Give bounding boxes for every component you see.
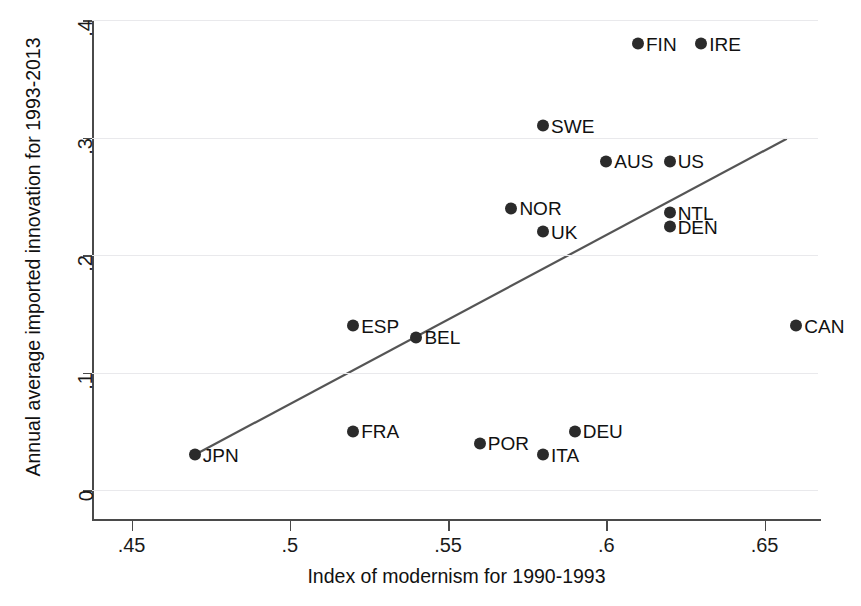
- point-label: FRA: [361, 422, 399, 441]
- data-point-bel[interactable]: BEL: [410, 328, 460, 347]
- point-label: SWE: [551, 116, 594, 135]
- point-marker-icon: [410, 331, 422, 343]
- data-point-uk[interactable]: UK: [537, 222, 577, 241]
- data-point-esp[interactable]: ESP: [347, 316, 399, 335]
- point-marker-icon: [569, 425, 581, 437]
- y-axis-tick-label: .1: [75, 373, 98, 390]
- point-marker-icon: [632, 38, 644, 50]
- y-axis-title: Annual average imported innovation for 1…: [22, 22, 48, 492]
- x-axis-tick-label: .45: [118, 534, 146, 557]
- data-point-fra[interactable]: FRA: [347, 422, 399, 441]
- y-axis-tick-label: .4: [75, 20, 98, 37]
- gridline-y: [92, 490, 818, 491]
- point-label: DEU: [583, 422, 623, 441]
- data-point-deu[interactable]: DEU: [569, 422, 623, 441]
- x-axis-tick: [448, 519, 450, 531]
- data-point-jpn[interactable]: JPN: [189, 445, 239, 464]
- point-marker-icon: [537, 120, 549, 132]
- x-axis-tick-label: .65: [751, 534, 779, 557]
- x-axis-tick-label: .55: [434, 534, 462, 557]
- point-marker-icon: [600, 155, 612, 167]
- plot-area: 0.1.2.3.4FINIRESWEAUSUSNORNTLDENUKCANESP…: [92, 20, 820, 490]
- point-label: POR: [488, 434, 529, 453]
- point-label: IRE: [709, 34, 741, 53]
- point-label: ESP: [361, 316, 399, 335]
- data-point-us[interactable]: US: [664, 152, 704, 171]
- data-point-den[interactable]: DEN: [664, 217, 718, 236]
- point-label: UK: [551, 222, 577, 241]
- point-label: DEN: [678, 217, 718, 236]
- x-axis-tick: [765, 519, 767, 531]
- gridline-y: [92, 20, 818, 21]
- point-label: AUS: [614, 152, 653, 171]
- point-marker-icon: [537, 226, 549, 238]
- point-label: US: [678, 152, 704, 171]
- data-point-aus[interactable]: AUS: [600, 152, 653, 171]
- data-point-ire[interactable]: IRE: [695, 34, 741, 53]
- point-label: NOR: [519, 199, 561, 218]
- point-marker-icon: [664, 221, 676, 233]
- gridline-y: [92, 138, 818, 139]
- x-axis-tick-label: .5: [281, 534, 298, 557]
- x-axis-tick: [606, 519, 608, 531]
- x-axis-line: [92, 519, 821, 521]
- point-marker-icon: [189, 449, 201, 461]
- point-marker-icon: [790, 320, 802, 332]
- data-point-swe[interactable]: SWE: [537, 116, 594, 135]
- chart-figure: Annual average imported innovation for 1…: [0, 0, 861, 606]
- point-label: FIN: [646, 34, 677, 53]
- point-marker-icon: [505, 202, 517, 214]
- y-axis-tick-label: 0: [75, 490, 98, 501]
- data-point-can[interactable]: CAN: [790, 316, 844, 335]
- point-marker-icon: [347, 320, 359, 332]
- data-point-fin[interactable]: FIN: [632, 34, 677, 53]
- x-axis-title: Index of modernism for 1990-1993: [92, 565, 821, 588]
- x-axis-tick-label: .6: [598, 534, 615, 557]
- point-marker-icon: [474, 437, 486, 449]
- point-label: BEL: [424, 328, 460, 347]
- point-marker-icon: [695, 38, 707, 50]
- point-marker-icon: [664, 155, 676, 167]
- data-point-nor[interactable]: NOR: [505, 199, 561, 218]
- point-label: ITA: [551, 445, 579, 464]
- data-point-ita[interactable]: ITA: [537, 445, 579, 464]
- y-axis-tick-label: .2: [75, 255, 98, 272]
- x-axis-tick: [290, 519, 292, 531]
- point-marker-icon: [537, 449, 549, 461]
- data-point-por[interactable]: POR: [474, 434, 529, 453]
- gridline-y: [92, 373, 818, 374]
- point-label: JPN: [203, 445, 239, 464]
- gridline-y: [92, 255, 818, 256]
- y-axis-tick-label: .3: [75, 138, 98, 155]
- point-marker-icon: [347, 425, 359, 437]
- point-label: CAN: [804, 316, 844, 335]
- x-axis-tick: [132, 519, 134, 531]
